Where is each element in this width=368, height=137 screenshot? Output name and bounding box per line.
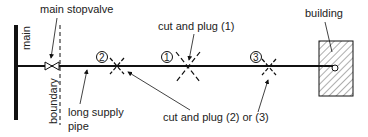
building-label: building bbox=[305, 7, 343, 19]
main-label: main bbox=[20, 26, 32, 50]
boundary-label: boundary bbox=[47, 78, 59, 124]
long-supply-pipe-pointer bbox=[80, 70, 87, 104]
long-supply-pipe-label-2: pipe bbox=[68, 120, 89, 132]
marker-2-label: 2 bbox=[99, 52, 105, 63]
main-stopvalve-label: main stopvalve bbox=[40, 3, 113, 15]
water-supply-diagram: main boundary main stopvalve long supply… bbox=[0, 0, 368, 137]
cut-and-plug-2-pointer bbox=[128, 72, 190, 110]
cut-and-plug-2-or-3-label: cut and plug (2) or (3) bbox=[163, 111, 269, 123]
cut-and-plug-1-label: cut and plug (1) bbox=[158, 20, 234, 32]
cut-and-plug-3-pointer bbox=[258, 80, 268, 112]
building-inlet-icon bbox=[332, 65, 338, 71]
long-supply-pipe-label-1: long supply bbox=[68, 106, 124, 118]
stopvalve-icon bbox=[45, 62, 59, 70]
marker-1-label: 1 bbox=[164, 52, 170, 63]
cut-and-plug-1-pointer bbox=[189, 34, 194, 60]
marker-3-label: 3 bbox=[253, 52, 259, 63]
stopvalve-pointer bbox=[51, 18, 57, 58]
